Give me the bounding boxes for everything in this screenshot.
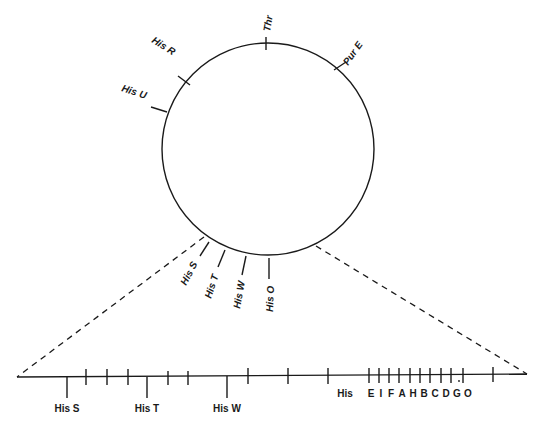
gene-label: O (464, 388, 472, 399)
gene-label: F (388, 388, 394, 399)
label-his-s: His S (54, 403, 79, 414)
expansion-line-right (316, 246, 527, 374)
marker-label: Thr (261, 13, 275, 32)
marker-label: His R (150, 34, 178, 57)
marker-label: His T (202, 272, 220, 299)
gene-label: E (368, 388, 375, 399)
expansion-line-left (17, 237, 204, 377)
gene-label: A (398, 388, 405, 399)
marker-his-t: His T (202, 250, 225, 300)
marker-label: His O (264, 285, 276, 312)
genetic-map-diagram: Thr Pur E His R His U His S His T His W … (0, 0, 538, 427)
label-his-operon: His (337, 388, 353, 399)
marker-his-s: His S (178, 242, 209, 287)
gene-label: D (442, 388, 449, 399)
gene-label: I (380, 388, 383, 399)
marker-his-r: His R (150, 34, 190, 85)
linear-map: His S His T His W His E I F A H B C D G … (17, 367, 527, 414)
marker-label: His S (178, 259, 200, 287)
gene-label: C (431, 388, 438, 399)
label-his-t: His T (135, 403, 159, 414)
chromosome-circle (162, 43, 374, 255)
gene-label: G (453, 388, 461, 399)
gene-label: H (409, 388, 416, 399)
marker-his-o: His O (264, 258, 276, 312)
label-his-w: His W (213, 403, 241, 414)
marker-thr: Thr (261, 13, 275, 50)
marker-label: His U (120, 82, 148, 101)
marker-label: Pur E (341, 39, 365, 67)
marker-his-u: His U (120, 82, 167, 112)
marker-label: His W (231, 279, 247, 310)
marker-pur-e: Pur E (334, 39, 365, 70)
marker-his-w: His W (231, 256, 247, 309)
gene-label: B (420, 388, 427, 399)
